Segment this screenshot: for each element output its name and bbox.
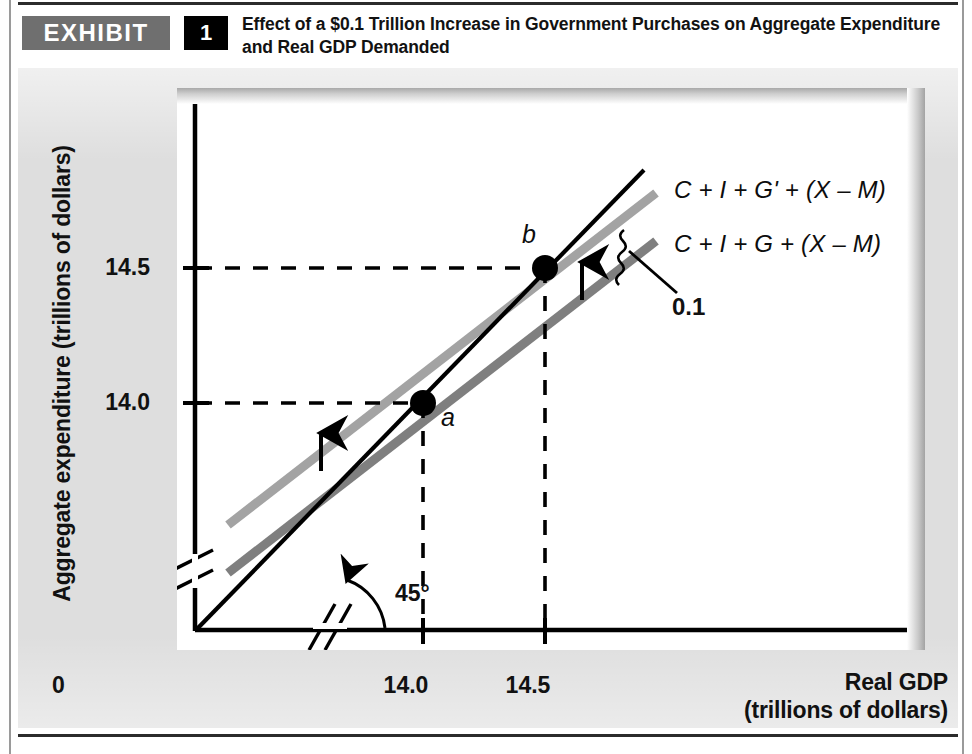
y-axis-break-mark [177,550,213,593]
x-axis-title: Real GDP [618,668,948,696]
origin-label: 0 [52,672,65,699]
x-axis-title-group: Real GDP (trillions of dollars) [618,668,948,724]
page-frame-top-rule [18,2,958,5]
x-tick-label-14-5: 14.5 [480,672,576,699]
data-point-a [410,390,436,416]
legend-label-original-expenditure: C + I + G + (X – M) [674,230,881,258]
exhibit-body-panel: Aggregate expenditure (trillions of doll… [18,68,958,728]
annotation-45-degrees: 45° [395,580,430,607]
page-frame-bottom-rule [18,734,958,737]
y-tick-label-14-0: 14.0 [54,389,150,416]
exhibit-page: EXHIBIT 1 Effect of a $0.1 Trillion Incr… [0,0,972,754]
exhibit-header: EXHIBIT 1 Effect of a $0.1 Trillion Incr… [18,6,958,66]
data-point-a-label: a [441,403,455,432]
x-tick-label-14-0: 14.0 [358,672,454,699]
legend-label-new-expenditure: C + I + G' + (X – M) [674,176,886,204]
angle-indicator-45 [347,580,385,628]
gap-leader-line [629,251,677,293]
page-frame-left-rule [9,0,11,754]
gap-brace-0-1 [616,230,626,285]
plot-card: C + I + G' + (X – M) C + I + G + (X – M)… [177,88,925,650]
exhibit-number-badge: 1 [184,16,228,50]
page-frame-right-rule [962,0,964,754]
chart-canvas [177,88,925,650]
annotation-0-1: 0.1 [672,293,705,321]
exhibit-badge: EXHIBIT [22,16,170,50]
exhibit-title: Effect of a $0.1 Trillion Increase in Go… [242,13,942,59]
data-point-b-label: b [522,220,536,249]
x-axis-break-mark [309,604,351,650]
y-tick-label-14-5: 14.5 [54,254,150,281]
chart-axes [195,88,925,631]
x-axis-title-units: (trillions of dollars) [618,696,948,724]
series-new-aggregate-expenditure [228,193,656,525]
data-point-b [532,255,558,281]
y-axis-title: Aggregate expenditure (trillions of doll… [49,54,76,694]
